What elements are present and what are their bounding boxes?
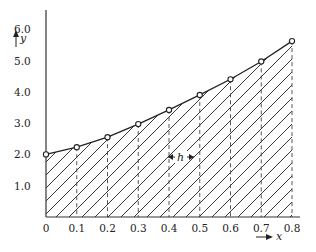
y-tick-label: 1.0 [14,180,31,192]
data-polyline [46,41,292,154]
data-point [166,107,171,112]
data-point [43,152,48,157]
x-tick-label: 0 [43,222,50,234]
hatched-area [0,17,316,217]
data-point [259,59,264,64]
data-point [74,145,79,150]
data-point [289,38,294,43]
x-tick-label: 0.4 [161,222,178,234]
data-point [197,92,202,97]
y-axis-label: y [19,32,27,45]
x-tick-label: 0.3 [130,222,147,234]
y-tick-label: 5.0 [14,55,31,67]
x-tick-label: 0.1 [68,222,85,234]
x-tick-label: 0.5 [191,222,208,234]
x-axis-arrow-icon [256,234,273,240]
x-tick-label: 0.6 [222,222,239,234]
x-tick-label: 0.2 [99,222,116,234]
x-tick-labels: 00.10.20.30.40.50.60.70.8 [43,222,301,234]
data-point [105,135,110,140]
y-tick-label: 3.0 [14,117,31,129]
h-label: h [177,151,184,164]
x-tick-label: 0.7 [253,222,270,234]
y-tick-label: 4.0 [14,86,31,98]
data-point [228,77,233,82]
ordinate-dashed-lines [77,41,292,217]
trapezoidal-rule-diagram: 00.10.20.30.40.50.60.70.8 1.02.03.04.05.… [0,0,316,252]
x-tick-label: 0.8 [284,222,301,234]
y-tick-label: 2.0 [14,148,31,160]
x-axis-label: x [276,230,283,243]
y-tick-labels: 1.02.03.04.05.06.0 [14,23,31,192]
data-point [136,121,141,126]
